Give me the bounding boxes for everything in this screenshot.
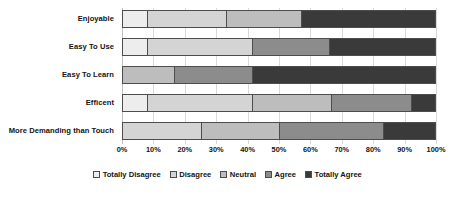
category-axis-labels: EnjoyableEasy To UseEasy To LearnEfficen… [0,8,118,144]
x-axis-tick: 30% [209,145,224,154]
x-axis-tick: 0% [117,145,128,154]
bar-segment [122,122,201,140]
category-label: Easy To Use [69,39,114,55]
bar-segment [147,38,252,56]
legend-swatch-icon [305,171,312,178]
x-axis-tick: 80% [366,145,381,154]
legend-label: Agree [275,170,297,179]
bar-segment [331,94,411,112]
plot-wrapper: EnjoyableEasy To UseEasy To LearnEfficen… [0,8,455,144]
legend-swatch-icon [220,171,227,178]
x-axis-tick: 40% [240,145,255,154]
x-axis-tick: 70% [334,145,349,154]
category-label: More Demanding than Touch [9,123,114,139]
bar-segment [147,10,226,28]
bar-segment [147,94,252,112]
legend-item[interactable]: Totally Disagree [93,170,161,179]
bar-row [122,66,436,84]
bar-segment [122,94,147,112]
legend-label: Totally Disagree [103,170,161,179]
bar-segment [252,94,331,112]
bar-row [122,122,436,140]
legend-swatch-icon [170,171,177,178]
bar-segment [252,66,436,84]
category-label: Efficent [86,95,114,111]
legend-item[interactable]: Neutral [220,170,256,179]
bar-row [122,38,436,56]
plot-area [122,8,436,144]
category-label: Enjoyable [78,11,114,27]
bar-segment [174,66,253,84]
x-axis-tick: 100% [427,145,446,154]
legend-item[interactable]: Agree [265,170,296,179]
chart-legend: Totally DisagreeDisagreeNeutralAgreeTota… [0,170,455,179]
bar-row [122,10,436,28]
legend-label: Disagree [179,170,211,179]
x-axis-tick: 10% [146,145,161,154]
bar-segment [279,122,383,140]
bar-segment [122,38,147,56]
x-axis-tick: 90% [397,145,412,154]
x-axis-tick: 20% [177,145,192,154]
legend-swatch-icon [93,171,100,178]
bar-segment [122,66,174,84]
x-axis-tick: 50% [272,145,287,154]
bar-segment [383,122,436,140]
bar-segment [301,10,436,28]
gridline [436,8,437,144]
bar-segment [411,94,436,112]
bar-segment [252,38,329,56]
legend-swatch-icon [265,171,272,178]
bar-row [122,94,436,112]
bar-segment [226,10,301,28]
legend-label: Neutral [230,170,256,179]
legend-item[interactable]: Totally Agree [305,170,362,179]
bar-segment [201,122,280,140]
legend-label: Totally Agree [315,170,362,179]
bar-segment [329,38,436,56]
stacked-bar-chart: EnjoyableEasy To UseEasy To LearnEfficen… [0,0,455,199]
x-axis-tick: 60% [303,145,318,154]
bar-segment [122,10,147,28]
x-axis-tick-labels: 0%10%20%30%40%50%60%70%80%90%100% [122,145,436,159]
category-label: Easy To Learn [62,67,114,83]
legend-item[interactable]: Disagree [170,170,212,179]
